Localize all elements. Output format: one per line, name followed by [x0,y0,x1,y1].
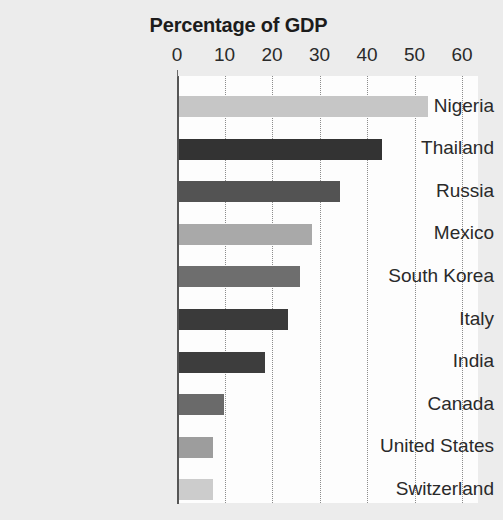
bar-south-korea [177,266,300,287]
y-tick-label-nigeria: Nigeria [335,95,503,117]
bar-italy [177,309,288,330]
y-tick-label-italy: Italy [335,308,503,330]
x-tick-label-50: 50 [395,44,435,66]
y-tick-label-canada: Canada [335,393,503,415]
bar-chart: Percentage of GDP 0102030405060 NigeriaT… [0,0,503,520]
bar-india [177,352,265,373]
y-tick-label-thailand: Thailand [335,137,503,159]
y-tick-label-south-korea: South Korea [335,265,503,287]
chart-title: Percentage of GDP [0,14,477,37]
y-tick-label-india: India [335,350,503,372]
y-tick-label-united-states: United States [335,435,503,457]
bar-switzerland [177,479,213,500]
x-tick-label-60: 60 [442,44,482,66]
x-tick-label-10: 10 [205,44,245,66]
y-tick-label-mexico: Mexico [335,222,503,244]
x-tick-label-0: 0 [157,44,197,66]
bar-united-states [177,437,213,458]
y-tick-label-russia: Russia [335,180,503,202]
x-tick-label-20: 20 [252,44,292,66]
bar-mexico [177,224,312,245]
y-tick-label-switzerland: Switzerland [335,478,503,500]
x-tick-label-40: 40 [347,44,387,66]
bar-canada [177,394,224,415]
bar-russia [177,181,340,202]
x-tick-label-30: 30 [300,44,340,66]
x-tick-mark-0 [177,70,178,77]
y-axis-spine [177,76,179,504]
